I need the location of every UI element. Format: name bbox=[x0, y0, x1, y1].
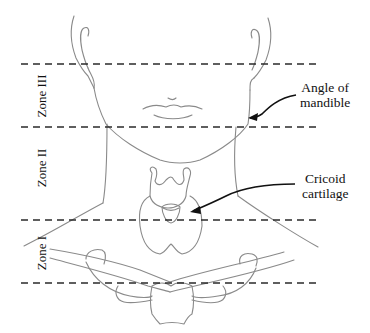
cricoid-cartilage-line2: cartilage bbox=[302, 186, 348, 201]
angle-of-mandible-line2: mandible bbox=[300, 95, 350, 110]
zone-2-label: Zone II bbox=[34, 149, 50, 188]
thyroid-gland bbox=[139, 196, 202, 254]
neck-zones-diagram: Zone III Zone II Zone I Angle of mandibl… bbox=[0, 0, 370, 333]
zone-3-label: Zone III bbox=[34, 75, 50, 118]
cricoid-cartilage-label: Cricoid cartilage bbox=[302, 171, 348, 201]
cricoid-cartilage-line1: Cricoid bbox=[302, 171, 348, 186]
mouth bbox=[143, 98, 202, 119]
left-ear bbox=[71, 16, 94, 88]
zone-1-label: Zone I bbox=[34, 236, 50, 270]
ribs-and-sternum bbox=[86, 249, 257, 324]
right-ear bbox=[250, 18, 271, 90]
angle-of-mandible-label: Angle of mandible bbox=[300, 80, 350, 110]
angle-of-mandible-arrow bbox=[248, 95, 296, 121]
anatomy-illustration bbox=[0, 0, 370, 333]
zone-boundary-lines bbox=[21, 64, 318, 283]
thyroid-cartilage bbox=[150, 167, 191, 208]
angle-of-mandible-line1: Angle of bbox=[300, 80, 350, 95]
